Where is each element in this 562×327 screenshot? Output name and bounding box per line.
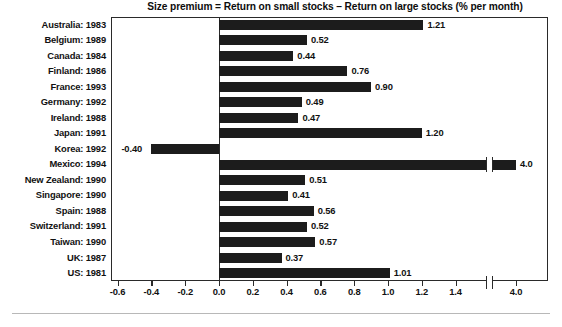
x-axis-tick-label: 0.0 (213, 286, 226, 297)
x-axis-tick-label: 0.2 (247, 286, 260, 297)
x-axis-tick-label: -0.2 (177, 286, 193, 297)
chart-title: Size premium = Return on small stocks – … (120, 1, 550, 12)
bar-row: 0.44 (111, 48, 548, 64)
bar-row: 1.01 (111, 265, 548, 281)
x-axis: -0.6-0.4-0.20.00.20.40.60.81.01.21.44.0 (111, 281, 548, 311)
category-label: Belgium: 1989 (0, 34, 106, 45)
category-label: Finland: 1986 (0, 65, 106, 76)
bar (219, 97, 302, 107)
x-axis-tick-label: -0.6 (110, 286, 126, 297)
bar (219, 175, 305, 185)
x-axis-tick-label: 1.0 (382, 286, 395, 297)
category-label: Taiwan: 1990 (0, 236, 106, 247)
bar (219, 113, 298, 123)
x-axis-tick-label: 1.2 (416, 286, 429, 297)
bar-row: 1.21 (111, 17, 548, 33)
bar-row: 0.56 (111, 203, 548, 219)
bar (219, 82, 371, 92)
x-axis-break-mark (486, 276, 494, 289)
x-axis-tick-label: 4.0 (510, 286, 523, 297)
category-label: Germany: 1992 (0, 96, 106, 107)
bar-value-label: 0.51 (309, 174, 327, 185)
bar (219, 66, 347, 76)
category-label: Switzerland: 1991 (0, 220, 106, 231)
bar-value-label: 0.90 (375, 81, 393, 92)
bar-value-label: 0.49 (306, 96, 324, 107)
bar-row: 0.57 (111, 234, 548, 250)
bar (219, 222, 307, 232)
bar (151, 144, 219, 154)
bar (219, 20, 423, 30)
bar-value-label: 0.41 (292, 189, 310, 200)
category-label: Japan: 1991 (0, 127, 106, 138)
bar-row: 0.76 (111, 64, 548, 80)
bar-row: 0.51 (111, 172, 548, 188)
category-label: Korea: 1992 (0, 143, 106, 154)
bar (219, 51, 293, 61)
x-axis-tick-label: -0.4 (144, 286, 160, 297)
category-label: Ireland: 1988 (0, 112, 106, 123)
bar-row: 0.41 (111, 188, 548, 204)
chart-figure: Size premium = Return on small stocks – … (0, 0, 562, 327)
bar (219, 237, 315, 247)
bar-row: 0.52 (111, 219, 548, 235)
x-axis-tick-label: 0.4 (280, 286, 293, 297)
bar (219, 206, 314, 216)
bar-row: 0.52 (111, 33, 548, 49)
bar-row: 4.0 (111, 157, 548, 173)
bar-row: -0.40 (111, 141, 548, 157)
x-axis-tick-label: 1.4 (449, 286, 462, 297)
bar-row: 0.47 (111, 110, 548, 126)
bottom-rule-divider (12, 313, 550, 314)
category-label: Mexico: 1994 (0, 158, 106, 169)
bar-value-label: -0.40 (121, 143, 142, 154)
bar (219, 128, 422, 138)
bar-value-label: 0.56 (318, 205, 336, 216)
bar (219, 160, 516, 170)
bar (219, 35, 307, 45)
category-label: Spain: 1988 (0, 205, 106, 216)
bar-value-label: 0.47 (302, 112, 320, 123)
bar-value-label: 4.0 (520, 158, 533, 169)
category-label: New Zealand: 1990 (0, 174, 106, 185)
bar-value-label: 0.44 (297, 50, 315, 61)
bar-value-label: 0.57 (319, 236, 337, 247)
bar (219, 191, 288, 201)
bar-row: 0.37 (111, 250, 548, 266)
bar-value-label: 0.37 (286, 252, 304, 263)
bar-value-label: 1.21 (427, 19, 445, 30)
category-label: Canada: 1984 (0, 50, 106, 61)
category-label: UK: 1987 (0, 252, 106, 263)
x-axis-tick-label: 0.6 (314, 286, 327, 297)
category-label: Australia: 1983 (0, 19, 106, 30)
category-label: US: 1981 (0, 267, 106, 278)
x-axis-tick-label: 0.8 (348, 286, 361, 297)
bars-layer: 1.210.520.440.760.900.490.471.20-0.404.0… (111, 17, 548, 281)
bar-value-label: 1.01 (394, 267, 412, 278)
bar-row: 0.49 (111, 95, 548, 111)
bar-row: 1.20 (111, 126, 548, 142)
bar-value-label: 0.76 (351, 65, 369, 76)
bar-value-label: 1.20 (426, 127, 444, 138)
bar-row: 0.90 (111, 79, 548, 95)
bar (219, 268, 390, 278)
bar-value-label: 0.52 (311, 220, 329, 231)
bar (219, 253, 282, 263)
category-label: France: 1993 (0, 81, 106, 92)
bar-value-label: 0.52 (311, 34, 329, 45)
category-axis: Australia: 1983Belgium: 1989Canada: 1984… (0, 17, 106, 281)
axis-break-mark (486, 157, 494, 172)
category-label: Singapore: 1990 (0, 189, 106, 200)
